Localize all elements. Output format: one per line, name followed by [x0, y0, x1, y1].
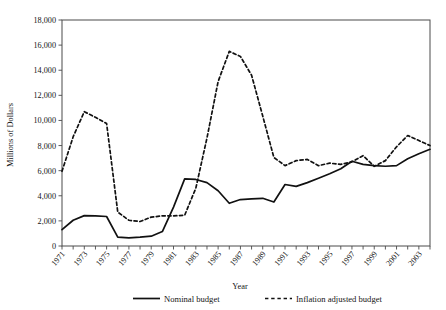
- y-axis-title: Millions of Dollars: [6, 103, 15, 167]
- y-tick-label: 16,000: [33, 41, 56, 50]
- legend-label-inflation-adjusted-budget: Inflation adjusted budget: [296, 294, 383, 304]
- legend-label-nominal-budget: Nominal budget: [164, 294, 220, 304]
- chart-container: 02,0004,0006,0008,00010,00012,00014,0001…: [0, 0, 446, 310]
- x-axis-title: Year: [232, 282, 248, 291]
- y-tick-label: 18,000: [33, 16, 56, 25]
- y-tick-label: 2,000: [38, 217, 56, 226]
- y-tick-label: 8,000: [38, 142, 56, 151]
- y-tick-label: 10,000: [33, 116, 56, 125]
- y-tick-label: 14,000: [33, 66, 56, 75]
- y-tick-label: 6,000: [38, 167, 56, 176]
- y-tick-label: 4,000: [38, 192, 56, 201]
- y-tick-label: 0: [52, 242, 56, 251]
- line-chart: 02,0004,0006,0008,00010,00012,00014,0001…: [0, 0, 446, 310]
- y-tick-label: 12,000: [33, 91, 56, 100]
